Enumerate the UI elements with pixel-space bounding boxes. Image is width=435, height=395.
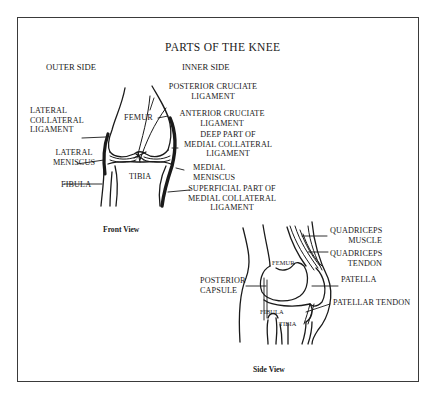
label-patellar-tendon: PATELLAR TENDON — [333, 298, 410, 308]
front-view-caption: Front View — [103, 225, 139, 234]
label-lateral-meniscus: LATERAL MENISCUS — [52, 148, 96, 167]
label-tibia-side: TIBIA — [279, 320, 297, 328]
label-tibia-front: TIBIA — [129, 172, 151, 182]
label-deep-medial-collateral-ligament: DEEP PART OF MEDIAL COLLATERAL LIGAMENT — [178, 130, 278, 159]
label-fibula: FIBULA — [61, 180, 91, 190]
label-fibula-side: FIBULA — [260, 308, 284, 316]
label-posterior-capsule: POSTERIOR CAPSULE — [200, 276, 245, 295]
label-femur-front: FEMUR — [124, 113, 153, 123]
label-superficial-medial-collateral-ligament: SUPERFICIAL PART OF MEDIAL COLLATERAL LI… — [176, 184, 288, 213]
label-quadriceps-muscle: QUADRICEPS MUSCLE — [330, 226, 382, 245]
label-quadriceps-tendon: QUADRICEPS TENDON — [330, 249, 382, 268]
outer-side-header: OUTER SIDE — [46, 62, 96, 72]
side-view-caption: Side View — [253, 365, 285, 374]
label-posterior-cruciate-ligament: POSTERIOR CRUCIATE LIGAMENT — [155, 82, 271, 101]
diagram-title: PARTS OF THE KNEE — [165, 41, 280, 53]
inner-side-header: INNER SIDE — [182, 62, 230, 72]
label-anterior-cruciate-ligament: ANTERIOR CRUCIATE LIGAMENT — [168, 109, 276, 128]
label-lateral-collateral-ligament: LATERAL COLLATERAL LIGAMENT — [30, 106, 84, 135]
label-medial-meniscus: MEDIAL MENISCUS — [193, 163, 235, 182]
label-femur-side: FEMUR — [272, 259, 295, 267]
label-patella: PATELLA — [341, 275, 376, 285]
